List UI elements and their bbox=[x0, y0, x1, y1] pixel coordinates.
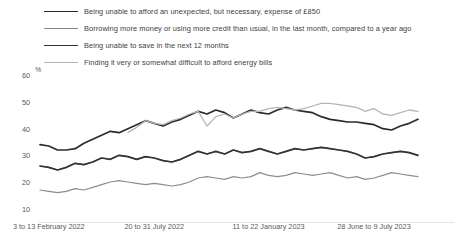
series-line bbox=[40, 107, 418, 150]
legend-item-label: Borrowing more money or using more credi… bbox=[84, 24, 411, 33]
series-line bbox=[40, 147, 418, 170]
legend-line-swatch bbox=[44, 11, 78, 12]
plot-area: % 60 50 40 30 20 10 3 to 13 February 202… bbox=[0, 66, 460, 248]
legend-item-label: Being unable to save in the next 12 mont… bbox=[84, 41, 229, 50]
legend-item-label: Being unable to afford an unexpected, bu… bbox=[84, 7, 320, 16]
series-lines bbox=[0, 66, 460, 248]
legend-item: Borrowing more money or using more credi… bbox=[44, 21, 454, 36]
x-axis-tick: 28 June to 9 July 2023 bbox=[337, 222, 410, 231]
x-axis-tick: 20 to 31 July 2022 bbox=[124, 222, 184, 231]
x-axis-tick: 3 to 13 February 2022 bbox=[13, 222, 85, 231]
legend-item: Being unable to save in the next 12 mont… bbox=[44, 38, 454, 53]
legend-line-swatch bbox=[44, 28, 78, 29]
legend-item: Being unable to afford an unexpected, bu… bbox=[44, 4, 454, 19]
series-line bbox=[40, 147, 418, 170]
chart-container: Being unable to afford an unexpected, bu… bbox=[0, 0, 460, 248]
chart-legend: Being unable to afford an unexpected, bu… bbox=[44, 4, 454, 72]
series-line bbox=[40, 173, 418, 193]
series-line bbox=[128, 103, 418, 132]
legend-line-swatch bbox=[44, 62, 78, 63]
x-axis-tick: 11 to 22 January 2023 bbox=[233, 222, 305, 231]
legend-line-swatch bbox=[44, 45, 78, 46]
